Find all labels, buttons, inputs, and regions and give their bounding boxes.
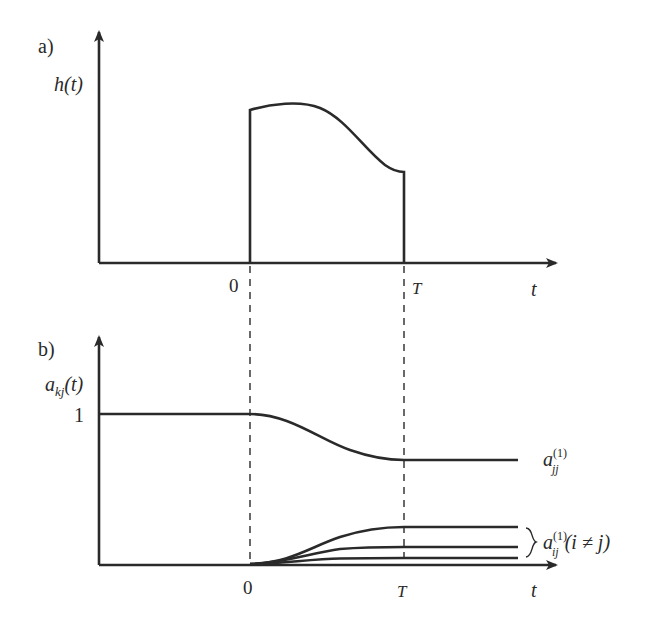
x-axis-label-t-a: t [531,278,537,300]
brace-icon [526,528,536,557]
panel-a: a) h(t) 0 T t [38,32,556,300]
tick-zero-b: 0 [243,577,253,598]
panel-b: b) akj(t) 1 a(1)jj a(1)ij(i ≠ j) 0 T t [38,337,610,601]
tick-T-a: T [412,279,423,298]
x-axis-label-t-b: t [531,579,537,601]
pulse-curve-h [250,104,404,263]
figure: a) h(t) 0 T t b) akj(t) 1 a(1)jj a(1)ij(… [0,0,662,641]
panel-b-label: b) [38,338,55,361]
label-ajj1: a(1)jj [543,446,567,476]
y-axis-label-akj: akj(t) [45,373,84,399]
tick-zero-a: 0 [229,275,239,296]
panel-a-label: a) [38,35,54,58]
y-tick-one: 1 [74,404,84,426]
curve-ajj [99,414,518,460]
label-aij1: a(1)ij(i ≠ j) [543,529,610,559]
y-axis-label-h: h(t) [54,73,83,96]
tick-T-b: T [397,582,408,601]
